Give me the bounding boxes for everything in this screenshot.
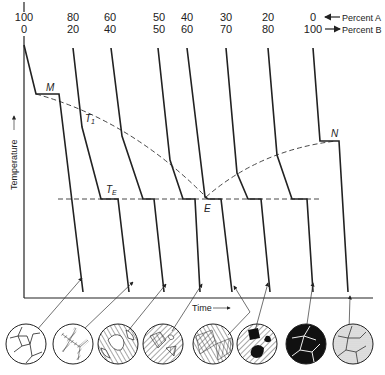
micrograph-pure-a [6, 324, 46, 364]
curve-0a [313, 48, 348, 292]
label-b-100: 100 [304, 23, 322, 35]
label-a-30: 30 [220, 11, 232, 23]
point-n: N [331, 128, 339, 139]
cooling-curves [24, 45, 348, 292]
curve-30a [226, 48, 270, 292]
label-b-20: 20 [67, 23, 79, 35]
curve-80a [73, 48, 129, 292]
point-t1-sub: 1 [91, 118, 95, 125]
micrograph-near-eutectic [143, 324, 183, 364]
label-a-20: 20 [262, 11, 274, 23]
composition-labels: 100 0 80 20 60 40 50 50 40 60 30 70 20 8… [15, 2, 382, 35]
label-b-50: 50 [153, 23, 165, 35]
micrograph-eutectic [193, 324, 233, 364]
label-a-50: 50 [153, 11, 165, 23]
micrograph-primary-b-dominant [286, 324, 326, 364]
curve-50a [158, 48, 200, 292]
microstructures [6, 324, 373, 364]
micrograph-primary-b [237, 324, 277, 364]
legend-percent-a: Percent A [342, 13, 381, 23]
micrograph-pure-b [333, 324, 373, 364]
label-a-40: 40 [181, 11, 193, 23]
y-axis-label: Temperature [9, 139, 19, 190]
cooling-curve-diagram: 100 0 80 20 60 40 50 50 40 60 30 70 20 8… [0, 0, 385, 375]
point-m: M [46, 82, 55, 93]
label-b-80: 80 [262, 23, 274, 35]
point-te-sub: E [112, 189, 117, 196]
micrograph-primary-a-eutectic [53, 324, 93, 364]
legend-percent-b: Percent B [342, 25, 382, 35]
label-a-80: 80 [67, 11, 79, 23]
x-axis-label: Time [192, 303, 212, 313]
label-a-100: 100 [15, 11, 33, 23]
liquidus-b-curve [206, 141, 336, 197]
label-a-60: 60 [104, 11, 116, 23]
point-e: E [204, 203, 211, 214]
label-b-0: 0 [21, 23, 27, 35]
micrograph-more-eutectic [98, 324, 138, 364]
label-a-0: 0 [310, 11, 316, 23]
label-b-60: 60 [181, 23, 193, 35]
label-b-70: 70 [220, 23, 232, 35]
label-b-40: 40 [104, 23, 116, 35]
curve-40a [187, 48, 232, 292]
phase-boundaries [36, 94, 336, 199]
curve-60a [111, 48, 164, 292]
point-labels: M T 1 T E E N [46, 82, 339, 214]
curve-20a [268, 48, 313, 292]
